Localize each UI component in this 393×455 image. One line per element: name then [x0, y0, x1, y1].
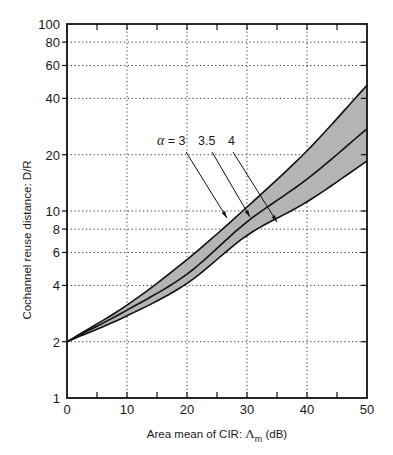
y-tick-label: 40 [46, 91, 60, 106]
shaded-band [67, 85, 367, 341]
x-tick-label: 50 [360, 402, 374, 417]
x-title-subscript: m [255, 434, 263, 444]
y-tick-label: 100 [38, 17, 60, 32]
x-axis-title: Area mean of CIR: Λm (dB) [147, 426, 287, 444]
curves [67, 85, 367, 341]
annotation-leader-line [186, 152, 227, 218]
x-title-prefix: Area mean of CIR: [147, 428, 245, 440]
x-tick-label: 10 [120, 402, 134, 417]
annotation-label: 4 [228, 134, 235, 148]
y-tick-label: 80 [46, 35, 60, 50]
x-title-unit: (dB) [262, 428, 287, 440]
y-tick-label: 2 [53, 335, 60, 350]
x-tick-label: 0 [63, 402, 70, 417]
y-axis-title: Cochannel reuse distance: D/R [21, 160, 33, 319]
y-tick-label: 60 [46, 58, 60, 73]
shaded-band-area [67, 85, 367, 341]
annotation-label: 3.5 [198, 134, 215, 148]
axis-ticks [62, 24, 367, 398]
y-tick-label: 1 [53, 391, 60, 406]
curve-alpha-0 [67, 85, 367, 341]
y-tick-label: 4 [53, 278, 60, 293]
y-tick-label: 6 [53, 245, 60, 260]
chart: α = 33.54 01020304050124681020406080100 … [0, 0, 393, 455]
annotation-value: = 3 [164, 134, 185, 148]
y-tick-label: 8 [53, 222, 60, 237]
annotation-label: α = 3 [157, 133, 186, 148]
tick-labels: 01020304050124681020406080100 [38, 17, 374, 417]
grid-lines [67, 24, 367, 398]
y-tick-label: 20 [46, 148, 60, 163]
x-tick-label: 40 [300, 402, 314, 417]
annotation-leader-line [212, 152, 250, 217]
arrowhead-icon [222, 211, 227, 218]
x-tick-label: 30 [240, 402, 254, 417]
x-tick-label: 20 [180, 402, 194, 417]
y-tick-label: 10 [46, 204, 60, 219]
